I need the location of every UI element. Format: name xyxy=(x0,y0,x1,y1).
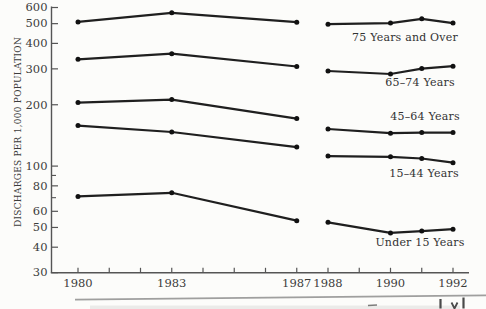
data-point xyxy=(76,100,81,105)
y-tick-label: 50 xyxy=(33,220,48,234)
y-tick-label: 100 xyxy=(26,159,48,173)
series-label-4: Under 15 Years xyxy=(375,236,464,249)
x-tick-label: 1988 xyxy=(313,276,342,290)
data-point xyxy=(451,21,456,26)
scanned-chart-page: 6005004003002001008060504030198019831987… xyxy=(0,0,486,309)
data-point xyxy=(76,194,81,199)
y-tick-label: 400 xyxy=(26,36,48,50)
data-point xyxy=(419,229,424,234)
x-tick-label: 1980 xyxy=(63,276,92,290)
data-point xyxy=(419,130,424,135)
data-point xyxy=(169,10,174,15)
data-point xyxy=(326,127,331,132)
data-point xyxy=(76,123,81,128)
data-point xyxy=(326,220,331,225)
data-point xyxy=(294,145,299,150)
data-point xyxy=(326,154,331,159)
data-point xyxy=(294,116,299,121)
data-point xyxy=(388,131,393,136)
series-line-2 xyxy=(78,100,297,119)
x-tick-label: 1990 xyxy=(376,276,405,290)
series-label-3: 15–44 Years xyxy=(389,167,458,180)
data-point xyxy=(419,156,424,161)
x-tick-label: 1992 xyxy=(438,276,467,290)
data-point xyxy=(294,20,299,25)
y-tick-label: 60 xyxy=(33,204,48,218)
data-point xyxy=(388,21,393,26)
data-point xyxy=(388,154,393,159)
series-line-3 xyxy=(78,126,297,148)
data-point xyxy=(294,218,299,223)
series-line-4 xyxy=(78,193,297,221)
y-tick-label: 80 xyxy=(33,179,48,193)
series-line-1 xyxy=(78,54,297,67)
data-point xyxy=(169,97,174,102)
data-point xyxy=(326,68,331,73)
x-tick-label: 1983 xyxy=(157,276,186,290)
data-point xyxy=(451,227,456,232)
data-point xyxy=(169,130,174,135)
data-point xyxy=(419,66,424,71)
y-tick-label: 600 xyxy=(26,0,48,14)
y-tick-label: 30 xyxy=(33,265,48,279)
series-line-0 xyxy=(78,13,297,22)
data-point xyxy=(451,64,456,69)
data-point xyxy=(451,130,456,135)
y-axis-title: DISCHARGES PER 1,000 POPULATION xyxy=(13,47,23,227)
x-tick-label: 1987 xyxy=(282,276,311,290)
discharge-rate-line-chart: 6005004003002001008060504030198019831987… xyxy=(0,0,486,309)
y-tick-label: 200 xyxy=(26,98,48,112)
data-point xyxy=(76,19,81,24)
y-tick-label: 40 xyxy=(33,240,48,254)
cropped-text-fragment xyxy=(368,305,377,306)
y-tick-label: 300 xyxy=(26,62,48,76)
data-point xyxy=(169,190,174,195)
data-point xyxy=(451,160,456,165)
y-tick-label: 500 xyxy=(26,16,48,30)
data-point xyxy=(169,51,174,56)
series-label-2: 45–64 Years xyxy=(390,110,459,123)
cropped-text-smudge xyxy=(90,306,460,309)
series-label-0: 75 Years and Over xyxy=(352,31,458,44)
bottom-page-rule xyxy=(75,295,486,299)
data-point xyxy=(76,57,81,62)
data-point xyxy=(294,64,299,69)
data-point xyxy=(326,22,331,27)
data-point xyxy=(419,16,424,21)
series-label-1: 65–74 Years xyxy=(385,76,454,89)
